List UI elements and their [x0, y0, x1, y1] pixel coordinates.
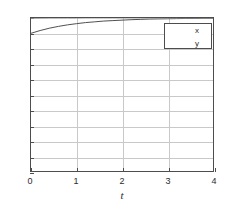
x-tick-label: 0	[27, 176, 32, 186]
x-tick-label: 4	[211, 176, 216, 186]
tick-y	[30, 173, 34, 174]
tick-x	[215, 168, 216, 172]
chart-figure: x y 00.10.20.30.40.50.60.70.80.91 01234 …	[0, 0, 229, 209]
legend-item-y: y	[165, 37, 211, 50]
x-tick-label: 2	[119, 176, 124, 186]
legend-item-x: x	[165, 24, 211, 37]
x-tick-label: 1	[73, 176, 78, 186]
plot-area: x y	[30, 17, 214, 172]
legend-label-y: y	[195, 40, 199, 48]
x-tick-label: 3	[165, 176, 170, 186]
legend-label-x: x	[195, 27, 199, 35]
chart-legend: x y	[164, 23, 212, 49]
x-axis-title: t	[120, 189, 123, 201]
